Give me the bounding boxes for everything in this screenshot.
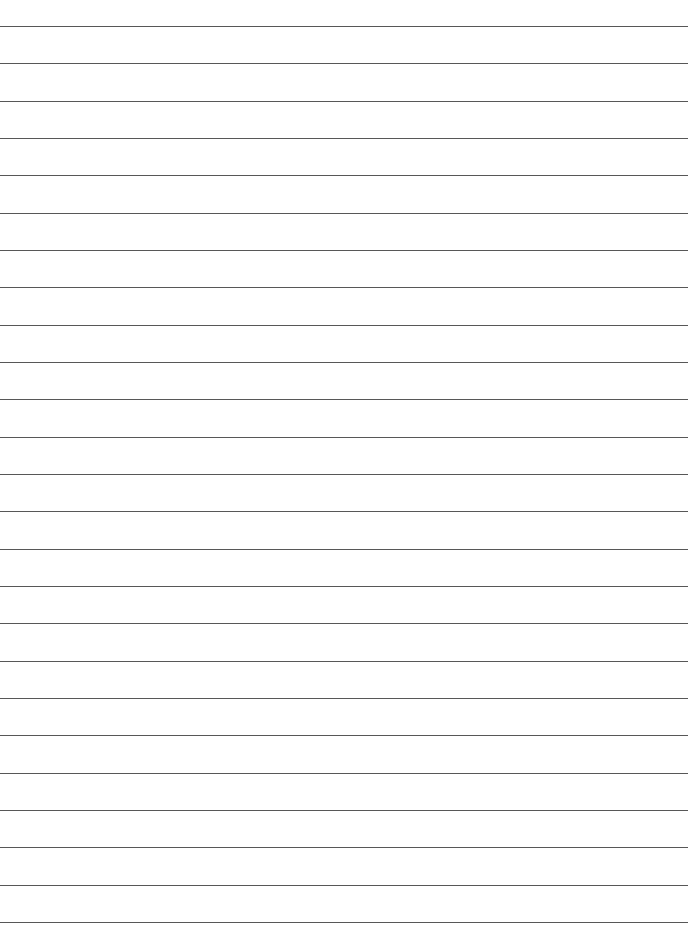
lined-paper-page xyxy=(0,0,693,928)
ruled-line xyxy=(0,26,688,27)
ruled-line xyxy=(0,735,688,736)
ruled-line xyxy=(0,175,688,176)
ruled-line xyxy=(0,287,688,288)
ruled-line xyxy=(0,362,688,363)
ruled-line xyxy=(0,138,688,139)
ruled-line xyxy=(0,101,688,102)
ruled-line xyxy=(0,773,688,774)
ruled-line xyxy=(0,586,688,587)
ruled-line xyxy=(0,922,688,923)
ruled-line xyxy=(0,549,688,550)
ruled-line xyxy=(0,213,688,214)
ruled-line xyxy=(0,437,688,438)
ruled-line xyxy=(0,399,688,400)
ruled-line xyxy=(0,847,688,848)
ruled-line xyxy=(0,474,688,475)
ruled-line xyxy=(0,325,688,326)
ruled-line xyxy=(0,698,688,699)
ruled-line xyxy=(0,885,688,886)
ruled-line xyxy=(0,623,688,624)
ruled-line xyxy=(0,511,688,512)
ruled-line xyxy=(0,63,688,64)
ruled-line xyxy=(0,810,688,811)
ruled-line xyxy=(0,250,688,251)
ruled-line xyxy=(0,661,688,662)
